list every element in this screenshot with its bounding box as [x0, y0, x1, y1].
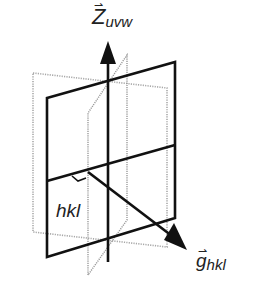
vector-arrow-icon: ⇀ — [198, 245, 207, 258]
plane-intersection-line — [47, 145, 175, 181]
g-hkl-label: ⇀ghkl — [196, 250, 226, 272]
z-axis-arrowhead-icon — [100, 41, 116, 64]
dotted-plane — [33, 73, 167, 247]
g-vector-line — [88, 172, 172, 236]
hkl-plane-label: hkl — [56, 200, 80, 222]
right-angle-marker-icon — [72, 176, 86, 181]
z-uvw-label: ⇀Zuvw — [92, 4, 132, 30]
hkl-plane — [47, 62, 175, 257]
vector-arrow-icon: ⇀ — [94, 0, 103, 12]
